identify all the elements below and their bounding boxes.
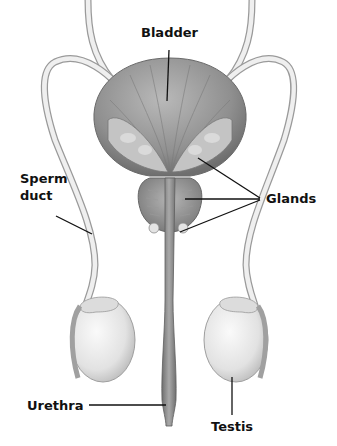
glands-leader-upper (198, 158, 260, 198)
bladder-label: Bladder (141, 25, 198, 40)
bladder-organ (94, 58, 246, 176)
reproductive-system-diagram (0, 0, 337, 446)
glands-label: Glands (266, 191, 316, 206)
sperm-duct-right (202, 0, 294, 350)
testis-left (71, 297, 135, 382)
sperm-duct-label-line2: duct (20, 188, 52, 203)
testis-right (204, 297, 268, 382)
sperm-duct-label-line1: Sperm (20, 171, 67, 186)
testis-label: Testis (211, 419, 253, 434)
urethra-label: Urethra (27, 398, 83, 413)
